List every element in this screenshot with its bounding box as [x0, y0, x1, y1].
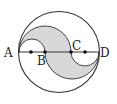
- label-a: A: [3, 46, 13, 60]
- point-a-left-center: [29, 50, 33, 54]
- geometry-diagram: A B C D: [0, 0, 117, 104]
- label-c: C: [72, 39, 81, 53]
- label-d: D: [100, 46, 110, 60]
- label-b: B: [37, 54, 46, 68]
- point-d-right-center: [83, 50, 87, 54]
